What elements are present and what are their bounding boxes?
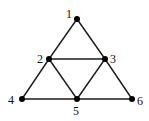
edge-2-5: [49, 59, 77, 99]
node-1: [74, 16, 80, 22]
node-label-5: 5: [73, 104, 79, 118]
edge-1-2: [49, 19, 77, 59]
node-6: [129, 96, 135, 102]
node-4: [19, 96, 25, 102]
graph-diagram: 123456: [0, 0, 149, 121]
node-label-6: 6: [137, 94, 143, 108]
edge-3-5: [77, 59, 105, 99]
node-label-2: 2: [37, 52, 43, 66]
node-label-4: 4: [8, 93, 14, 107]
node-2: [46, 56, 52, 62]
node-label-3: 3: [110, 52, 116, 66]
node-label-1: 1: [66, 7, 72, 21]
node-5: [74, 96, 80, 102]
edge-1-3: [77, 19, 105, 59]
node-3: [102, 56, 108, 62]
edge-2-4: [22, 59, 49, 99]
